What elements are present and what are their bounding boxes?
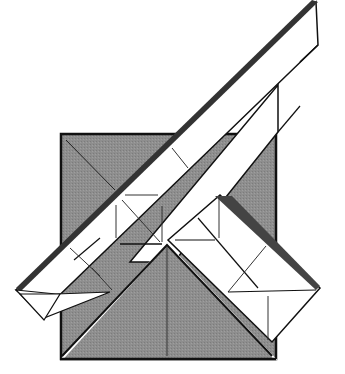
origami-diagram xyxy=(0,0,345,374)
